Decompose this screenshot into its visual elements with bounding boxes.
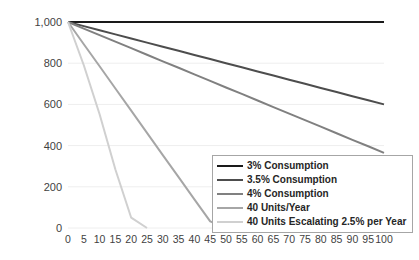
legend-item-label: 3.5% Consumption: [247, 175, 337, 185]
legend-item[interactable]: 40 Units Escalating 2.5% per Year: [217, 215, 406, 229]
x-tick-label: 75: [299, 233, 311, 245]
line-chart: 02004006008001,000 051015202530354045505…: [0, 0, 419, 260]
legend-item-label: 4% Consumption: [247, 189, 329, 199]
chart-legend: 3% Consumption3.5% Consumption4% Consump…: [212, 155, 413, 233]
x-tick-label: 15: [110, 233, 122, 245]
legend-swatch-icon: [217, 207, 243, 209]
x-tick-label: 25: [141, 233, 153, 245]
x-tick-label: 85: [331, 233, 343, 245]
x-tick-label: 70: [283, 233, 295, 245]
x-tick-label: 90: [347, 233, 359, 245]
x-tick-label: 45: [204, 233, 216, 245]
x-tick-label: 30: [157, 233, 169, 245]
x-tick-label: 40: [189, 233, 201, 245]
y-tick-label: 1,000: [2, 17, 62, 28]
legend-item-label: 40 Units/Year: [247, 203, 310, 213]
legend-swatch-icon: [217, 179, 243, 181]
legend-item-label: 3% Consumption: [247, 161, 329, 171]
y-axis-tick-labels: 02004006008001,000: [0, 22, 62, 228]
x-tick-label: 55: [236, 233, 248, 245]
x-tick-label: 35: [173, 233, 185, 245]
series-line-4: [68, 22, 226, 228]
legend-item[interactable]: 4% Consumption: [217, 187, 406, 201]
y-tick-label: 400: [2, 140, 62, 151]
y-tick-label: 800: [2, 58, 62, 69]
x-tick-label: 65: [268, 233, 280, 245]
legend-item[interactable]: 3% Consumption: [217, 159, 406, 173]
y-tick-label: 200: [2, 181, 62, 192]
y-tick-label: 0: [2, 223, 62, 234]
x-tick-label: 80: [315, 233, 327, 245]
legend-swatch-icon: [217, 221, 243, 223]
x-tick-label: 50: [220, 233, 232, 245]
series-line-2: [68, 22, 384, 104]
legend-item-label: 40 Units Escalating 2.5% per Year: [247, 217, 406, 227]
x-tick-label: 10: [94, 233, 106, 245]
y-tick-label: 600: [2, 99, 62, 110]
legend-item[interactable]: 40 Units/Year: [217, 201, 406, 215]
x-tick-label: 20: [125, 233, 137, 245]
x-axis-tick-labels: 0510152025303540455055606570758085909510…: [68, 233, 384, 249]
legend-swatch-icon: [217, 165, 243, 167]
x-tick-label: 100: [375, 233, 393, 245]
legend-item[interactable]: 3.5% Consumption: [217, 173, 406, 187]
x-tick-label: 5: [81, 233, 87, 245]
legend-swatch-icon: [217, 193, 243, 195]
x-tick-label: 95: [362, 233, 374, 245]
series-line-5: [68, 22, 147, 228]
x-tick-label: 60: [252, 233, 264, 245]
x-tick-label: 0: [65, 233, 71, 245]
